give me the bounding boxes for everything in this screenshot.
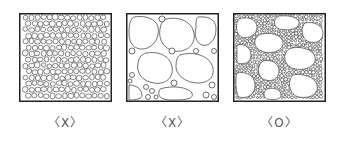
panel-well-graded	[233, 13, 326, 102]
large-aggregate-diagram	[126, 13, 219, 102]
label-well-graded: 〈O〉	[233, 113, 326, 130]
panel-large-with-small	[126, 13, 219, 102]
well-graded-aggregate-diagram	[233, 13, 326, 102]
panel-uniform-small	[19, 13, 112, 102]
label-large-with-small: 〈X〉	[126, 113, 219, 130]
uniform-small-aggregate-diagram	[19, 13, 112, 102]
label-uniform-small: 〈X〉	[19, 113, 112, 130]
